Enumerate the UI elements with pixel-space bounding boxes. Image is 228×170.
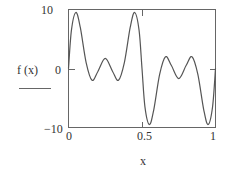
ytick-10: 10 [41,4,53,16]
xtick-0-5: 0.5 [137,130,152,142]
xtick-0: 0 [66,130,72,142]
xtick-1: 1 [210,130,216,142]
x-axis-label: x [140,155,146,167]
y-axis-label: f (x) [17,64,38,76]
function-curve [69,12,216,124]
ytick-minus-10: −10 [44,123,63,135]
ytick-0: 0 [55,64,61,76]
plot-area [0,0,228,170]
